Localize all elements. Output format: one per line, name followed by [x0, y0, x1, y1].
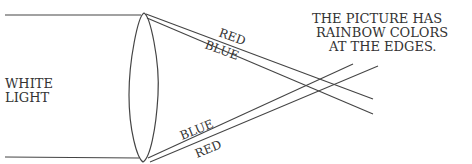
- annotation-line3: AT THE EDGES.: [328, 39, 436, 54]
- incoming-ray-bottom: [5, 157, 139, 158]
- white-light-label-line1: WHITE: [5, 76, 53, 91]
- bottom-red-ray: [150, 66, 378, 162]
- annotation-line2: RAINBOW COLORS: [316, 25, 448, 40]
- white-light-label-line2: LIGHT: [5, 90, 49, 105]
- chromatic-aberration-diagram: RED BLUE BLUE RED WHITE LIGHT THE PICTUR…: [0, 0, 472, 164]
- convex-lens: [129, 13, 158, 162]
- bottom-blue-label: BLUE: [178, 117, 216, 143]
- bottom-blue-ray: [148, 64, 353, 158]
- bottom-red-label: RED: [193, 138, 224, 161]
- annotation-line1: THE PICTURE HAS: [312, 11, 442, 26]
